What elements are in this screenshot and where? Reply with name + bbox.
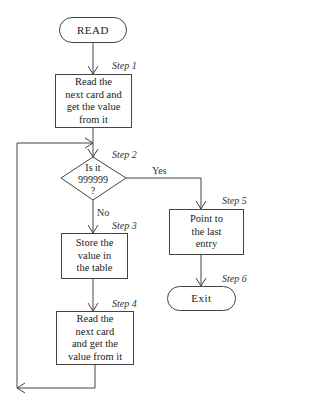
step-4-text: Read the next card and get the value fro… (68, 313, 122, 363)
step-5-label: Step 5 (222, 195, 247, 206)
step-3-process-box: Store the value in the table (61, 233, 128, 279)
no-label: No (97, 207, 109, 218)
step-1-text: Read the next card and get the value fro… (65, 76, 122, 126)
yes-label: Yes (152, 165, 167, 176)
step-2-label: Step 2 (112, 149, 137, 160)
step-3-text: Store the value in the table (76, 237, 114, 275)
step-1-label: Step 1 (112, 60, 137, 71)
step-2-decision: Is it 999999 ? (63, 162, 123, 197)
step-4-label: Step 4 (112, 298, 137, 309)
start-label: READ (77, 24, 109, 37)
step-5-process-box: Point to the last entry (169, 209, 244, 255)
step-5-text: Point to the last entry (190, 213, 223, 251)
step-2-text: Is it 999999 ? (78, 162, 108, 196)
step-6-label: Step 6 (222, 273, 247, 284)
start-terminal: READ (59, 17, 127, 43)
step-1-process-box: Read the next card and get the value fro… (55, 74, 132, 128)
exit-label: Exit (191, 292, 211, 305)
step-4-process-box: Read the next card and get the value fro… (56, 311, 134, 365)
step-3-label: Step 3 (112, 220, 137, 231)
exit-terminal: Exit (167, 286, 236, 311)
